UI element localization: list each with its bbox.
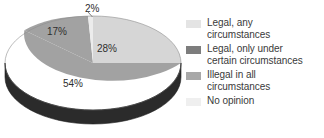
legend-label-line1: No opinion (207, 95, 254, 106)
pie-graphic: 28% 17% 54% 2% (0, 0, 186, 138)
legend-item-legal-any[interactable]: Legal, any circumstances (186, 17, 324, 40)
pie-chart: 28% 17% 54% 2% Legal, any circumstances … (0, 0, 324, 138)
legend-label-illegal-in-all: Illegal in all circumstances (207, 69, 270, 92)
pie-slice-legal-any (93, 16, 181, 63)
legend-label-line1: Legal, any (207, 17, 253, 28)
legend-item-illegal-in-all[interactable]: Illegal in all circumstances (186, 69, 324, 92)
slice-value-label-28: 28% (97, 43, 117, 54)
pie-svg (0, 0, 186, 138)
legend-swatch-icon-legal-any (186, 20, 201, 28)
slice-value-label-54: 54% (63, 78, 83, 89)
legend-swatch-icon-legal-only-under-certain (186, 46, 201, 54)
legend-item-legal-only-under-certain[interactable]: Legal, only under certain circumstances (186, 43, 324, 66)
legend-label-line2: circumstances (207, 29, 270, 40)
legend-label-line2: certain circumstances (207, 55, 303, 66)
legend-label-legal-any: Legal, any circumstances (207, 17, 270, 40)
slice-value-label-17: 17% (47, 26, 67, 37)
legend-label-line1: Legal, only under (207, 43, 283, 54)
slice-value-label-2: 2% (85, 3, 99, 14)
legend-label-line1: Illegal in all (207, 69, 256, 80)
chart-legend: Legal, any circumstances Legal, only und… (186, 17, 324, 110)
legend-swatch-icon-no-opinion (186, 98, 201, 106)
legend-label-no-opinion: No opinion (207, 95, 254, 107)
legend-label-legal-only-under-certain: Legal, only under certain circumstances (207, 43, 303, 66)
legend-label-line2: circumstances (207, 81, 270, 92)
legend-item-no-opinion[interactable]: No opinion (186, 95, 324, 107)
legend-swatch-icon-illegal-in-all (186, 72, 201, 80)
